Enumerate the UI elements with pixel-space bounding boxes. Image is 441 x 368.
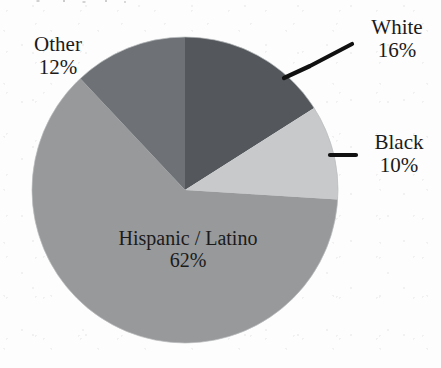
pie-chart-figure: White 16% Black 10% Other 12% Hispanic /… xyxy=(0,0,441,368)
pie-label-white: White 16% xyxy=(354,16,440,61)
pie-label-hispanic-latino-value: 62% xyxy=(93,250,283,272)
pie-label-black-name: Black xyxy=(358,131,440,154)
pie-label-hispanic-latino-name: Hispanic / Latino xyxy=(93,228,283,250)
leader-line-white xyxy=(284,44,352,78)
pie-label-white-name: White xyxy=(354,16,440,39)
pie-label-hispanic-latino: Hispanic / Latino 62% xyxy=(93,228,283,271)
pie-label-white-value: 16% xyxy=(354,39,440,62)
pie-label-other: Other 12% xyxy=(12,33,104,78)
pie-label-other-value: 12% xyxy=(12,56,104,79)
pie-label-other-name: Other xyxy=(12,33,104,56)
pie-label-black: Black 10% xyxy=(358,131,440,176)
pie-label-black-value: 10% xyxy=(358,154,440,177)
